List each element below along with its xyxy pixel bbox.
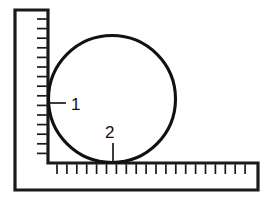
callout-1-label: 1 [71,95,80,114]
callout-1: 1 [49,95,80,114]
diagram-canvas: 1 2 [0,0,267,199]
callout-2: 2 [105,123,114,163]
l-shaped-ruler [15,10,258,190]
ruler-outline [15,10,258,190]
callout-2-label: 2 [105,123,114,142]
circle-and-square-diagram: 1 2 [0,0,267,199]
circle-shape [49,36,176,163]
